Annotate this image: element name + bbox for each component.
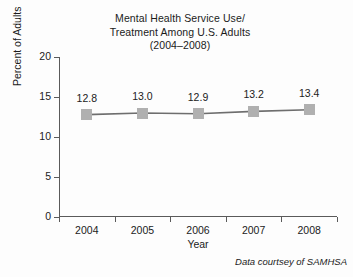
data-point-marker <box>81 109 92 120</box>
series-line <box>59 57 337 217</box>
chart-page: Mental Health Service Use/ Treatment Amo… <box>0 0 353 277</box>
chart-title: Mental Health Service Use/ Treatment Amo… <box>60 12 300 53</box>
x-axis-tick-label: 2006 <box>168 224 228 236</box>
data-point-marker <box>304 104 315 115</box>
x-axis-tick <box>59 217 60 222</box>
data-point-label: 12.8 <box>57 92 117 104</box>
data-point-marker <box>248 106 259 117</box>
chart-title-line-2: Treatment Among U.S. Adults <box>60 26 300 40</box>
y-axis-tick-label: 15 <box>39 90 51 102</box>
y-axis-tick-label: 20 <box>39 50 51 62</box>
plot-area: 05101520 20042005200620072008 12.813.012… <box>59 57 337 217</box>
x-axis-tick <box>170 217 171 222</box>
y-axis-tick-label: 0 <box>45 210 51 222</box>
data-point-marker <box>137 108 148 119</box>
data-point-label: 13.4 <box>279 87 339 99</box>
x-axis-tick <box>281 217 282 222</box>
data-point-label: 13.0 <box>112 90 172 102</box>
x-axis-tick <box>115 217 116 222</box>
y-axis-title: Percent of Adults <box>11 7 23 86</box>
x-axis-title: Year <box>59 238 337 250</box>
x-axis-tick-label: 2005 <box>112 224 172 236</box>
x-axis-tick <box>337 217 338 222</box>
data-point-label: 13.2 <box>224 88 284 100</box>
x-axis-tick-label: 2007 <box>224 224 284 236</box>
source-annotation: Data courtsey of SAMHSA <box>235 256 347 267</box>
y-axis-tick-label: 5 <box>45 170 51 182</box>
x-axis-tick <box>226 217 227 222</box>
y-axis-tick-label: 10 <box>39 130 51 142</box>
chart-title-line-3: (2004–2008) <box>60 39 300 53</box>
x-axis-tick-label: 2004 <box>57 224 117 236</box>
chart-title-line-1: Mental Health Service Use/ <box>60 12 300 26</box>
x-axis-tick-label: 2008 <box>279 224 339 236</box>
data-point-label: 12.9 <box>168 91 228 103</box>
data-point-marker <box>193 108 204 119</box>
